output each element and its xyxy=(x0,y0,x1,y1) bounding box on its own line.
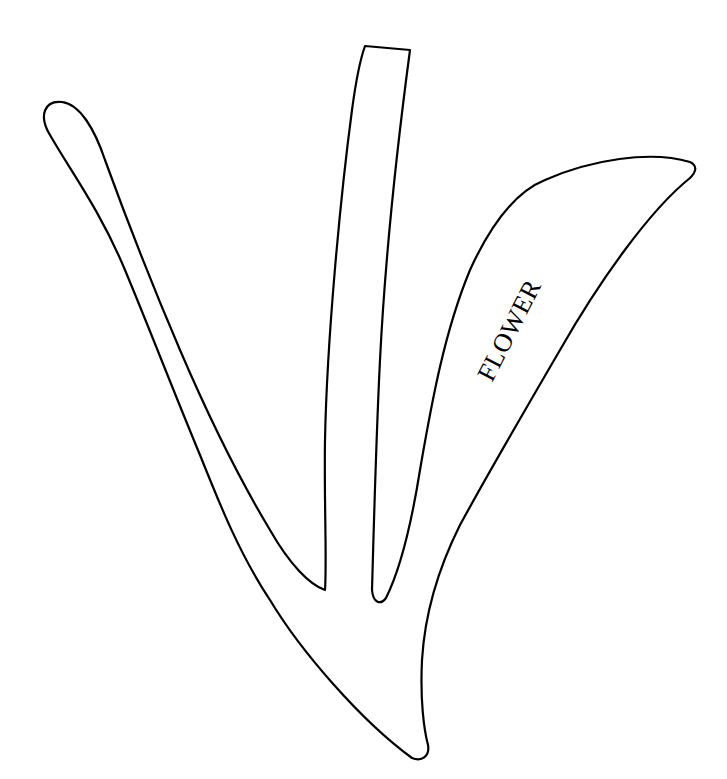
plant-outline xyxy=(44,46,695,759)
plant-drawing: FLOWER xyxy=(0,0,727,779)
